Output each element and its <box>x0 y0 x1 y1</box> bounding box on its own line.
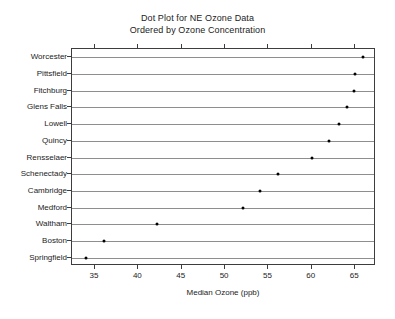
x-axis-title: Median Ozone (ppb) <box>71 288 375 297</box>
y-axis-tick <box>67 223 71 224</box>
y-axis-label-springfield: Springfield <box>29 252 67 261</box>
row-baseline <box>72 74 374 75</box>
data-point <box>361 56 364 59</box>
plot-area <box>71 48 375 265</box>
x-axis-tick <box>137 265 138 269</box>
y-axis-label-rensselaer: Rensselaer <box>27 152 67 161</box>
x-axis-tick <box>267 265 268 269</box>
row-baseline <box>72 91 374 92</box>
y-axis-label-lowell: Lowell <box>44 119 67 128</box>
x-axis-tick <box>354 265 355 269</box>
x-axis-tick-top <box>137 44 138 48</box>
y-axis-tick <box>67 90 71 91</box>
row-baseline <box>72 107 374 108</box>
x-axis-tick-top <box>267 44 268 48</box>
x-axis-tick-label: 40 <box>133 271 142 280</box>
data-point <box>310 157 313 160</box>
y-axis-category-labels: WorcesterPittsfieldFitchburgGlens FallsL… <box>0 48 67 265</box>
y-axis-label-medford: Medford <box>38 202 67 211</box>
x-axis-tick <box>94 265 95 269</box>
x-axis-tick-label: 50 <box>220 271 229 280</box>
dot-plot-screenshot: Dot Plot for NE Ozone Data Ordered by Oz… <box>0 0 395 319</box>
x-axis-tick-top <box>181 44 182 48</box>
y-axis-label-pittsfield: Pittsfield <box>37 69 67 78</box>
y-axis-tick <box>67 73 71 74</box>
y-axis-label-boston: Boston <box>42 235 67 244</box>
x-axis-tick-label: 55 <box>263 271 272 280</box>
y-axis-label-quincy: Quincy <box>42 135 67 144</box>
y-axis-tick <box>67 123 71 124</box>
data-point <box>337 123 340 126</box>
data-point <box>242 207 245 210</box>
data-point <box>155 223 158 226</box>
y-axis-tick <box>67 106 71 107</box>
y-axis-label-schenectady: Schenectady <box>21 169 67 178</box>
data-point <box>345 106 348 109</box>
data-point <box>328 140 331 143</box>
y-axis-label-waltham: Waltham <box>36 219 67 228</box>
x-axis-tick <box>311 265 312 269</box>
chart-subtitle: Ordered by Ozone Concentration <box>0 24 395 36</box>
y-axis-tick <box>67 190 71 191</box>
x-axis-tick-top <box>354 44 355 48</box>
x-axis-tick-top <box>311 44 312 48</box>
x-axis-tick-label: 60 <box>306 271 315 280</box>
row-baseline <box>72 124 374 125</box>
y-axis-tick <box>67 173 71 174</box>
row-baseline <box>72 158 374 159</box>
x-axis-tick-label: 35 <box>90 271 99 280</box>
row-baseline <box>72 241 374 242</box>
row-baseline <box>72 258 374 259</box>
x-axis-tick-top <box>224 44 225 48</box>
y-axis-tick <box>67 157 71 158</box>
data-point <box>258 190 261 193</box>
x-axis-tick-label: 45 <box>176 271 185 280</box>
y-axis-tick <box>67 240 71 241</box>
data-point <box>102 240 105 243</box>
chart-title-block: Dot Plot for NE Ozone Data Ordered by Oz… <box>0 12 395 36</box>
y-axis-label-cambridge: Cambridge <box>28 185 67 194</box>
y-axis-label-worcester: Worcester <box>31 52 67 61</box>
row-baseline <box>72 191 374 192</box>
row-baseline <box>72 208 374 209</box>
x-axis-tick-top <box>94 44 95 48</box>
data-point <box>354 73 357 76</box>
y-axis-tick <box>67 257 71 258</box>
data-point <box>85 257 88 260</box>
y-axis-tick <box>67 207 71 208</box>
row-baseline <box>72 174 374 175</box>
data-point <box>276 173 279 176</box>
y-axis-label-glens-falls: Glens Falls <box>27 102 67 111</box>
row-baseline <box>72 224 374 225</box>
chart-title: Dot Plot for NE Ozone Data <box>0 12 395 24</box>
row-baseline <box>72 57 374 58</box>
x-axis-tick-label: 65 <box>350 271 359 280</box>
x-axis-tick <box>224 265 225 269</box>
data-point <box>353 90 356 93</box>
y-axis-label-fitchburg: Fitchburg <box>34 85 67 94</box>
y-axis-tick <box>67 140 71 141</box>
y-axis-tick <box>67 56 71 57</box>
x-axis-tick <box>181 265 182 269</box>
